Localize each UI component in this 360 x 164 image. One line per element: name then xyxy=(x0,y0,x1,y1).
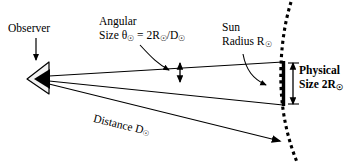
sun-angular-size-diagram: Observer Angular Size θ☉ = 2R☉/D☉ Sun Ra… xyxy=(0,0,360,164)
angular-size-label: Angular Size θ☉ = 2R☉/D☉ xyxy=(99,15,185,43)
angular-size-line1: Angular xyxy=(99,15,185,29)
sun-radius-text: Radius R xyxy=(222,35,265,47)
observer-label: Observer xyxy=(8,22,50,36)
angular-size-prefix: Size xyxy=(99,29,122,41)
physical-size-label: Physical Size 2R☉ xyxy=(299,64,343,92)
angular-size-equals: = 2R xyxy=(134,29,160,41)
observer-label-text: Observer xyxy=(8,22,50,34)
sun-label-line1: Sun xyxy=(222,21,272,35)
physical-size-text: Size 2R xyxy=(299,78,336,90)
sun-label-line2: Radius R☉ xyxy=(222,35,272,49)
physical-label-line2: Size 2R☉ xyxy=(299,78,343,92)
sun-symbol-sub-radius: ☉ xyxy=(160,33,167,42)
angular-size-leader-curve xyxy=(140,45,169,70)
angular-size-over-distance: /D xyxy=(167,29,179,41)
physical-label-line1: Physical xyxy=(299,64,343,78)
sun-symbol-sub-distance: ☉ xyxy=(178,33,185,42)
sun-symbol-sub-sunradius: ☉ xyxy=(265,39,272,48)
sun-radius-leader-curve xyxy=(243,54,266,85)
angular-size-line2: Size θ☉ = 2R☉/D☉ xyxy=(99,29,185,43)
sun-radius-label: Sun Radius R☉ xyxy=(222,21,272,49)
sun-symbol-sub-physical: ☉ xyxy=(336,82,343,91)
